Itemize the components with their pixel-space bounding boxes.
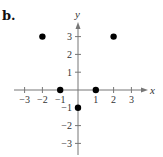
y-tick-label: 2 [67,49,72,60]
y-tick-label: 3 [67,31,72,42]
y-tick-label: −1 [61,102,72,113]
data-point [93,87,99,93]
x-tick-label: 1 [93,94,98,105]
x-tick-label: −3 [19,94,30,105]
data-point [75,105,81,111]
x-tick-label: 3 [129,94,134,105]
x-tick-label: 2 [111,94,116,105]
y-tick-label: 1 [67,67,72,78]
y-axis-arrow-icon [76,22,81,29]
y-axis-label: y [74,8,80,20]
y-tick-label: −3 [61,138,72,149]
x-axis-label: x [149,84,155,96]
data-point [39,33,45,39]
x-tick-label: −2 [37,94,48,105]
scatter-plot: x y −3−2−1123 321−1−2−3 [0,0,163,157]
x-axis-arrow-icon [141,88,148,93]
data-point [110,33,116,39]
data-point [57,87,63,93]
y-tick-label: −2 [61,120,72,131]
